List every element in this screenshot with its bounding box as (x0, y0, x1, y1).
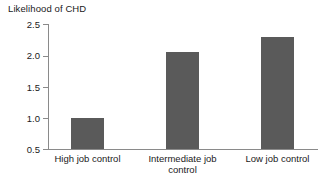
y-axis-tick-label-2.0: 2.0 (27, 51, 40, 61)
chart-title: Likelihood of CHD (8, 3, 86, 15)
x-axis-label-line: High job control (40, 153, 136, 164)
bar-chart: Likelihood of CHD 2.5 2.0 1.5 1.0 0.5 Hi… (0, 0, 328, 182)
y-axis-tick-label-0.5: 0.5 (27, 145, 40, 155)
bar-high-job-control (71, 118, 104, 149)
x-axis-label-intermediate-job-control: Intermediate job control (135, 153, 231, 175)
y-axis-tick-label-1.0: 1.0 (27, 114, 40, 124)
bar-intermediate-job-control (166, 52, 199, 149)
x-axis-label-line: Low job control (230, 153, 326, 164)
x-axis-label-line: control (135, 164, 231, 175)
x-axis-label-low-job-control: Low job control (230, 153, 326, 164)
y-axis-tick-label-2.5: 2.5 (27, 20, 40, 30)
y-axis-tick-label-1.5: 1.5 (27, 83, 40, 93)
x-axis-label-high-job-control: High job control (40, 153, 136, 164)
y-axis-line (48, 24, 49, 150)
bar-low-job-control (261, 37, 294, 150)
x-axis-label-line: Intermediate job (135, 153, 231, 164)
x-axis-line (48, 149, 318, 150)
